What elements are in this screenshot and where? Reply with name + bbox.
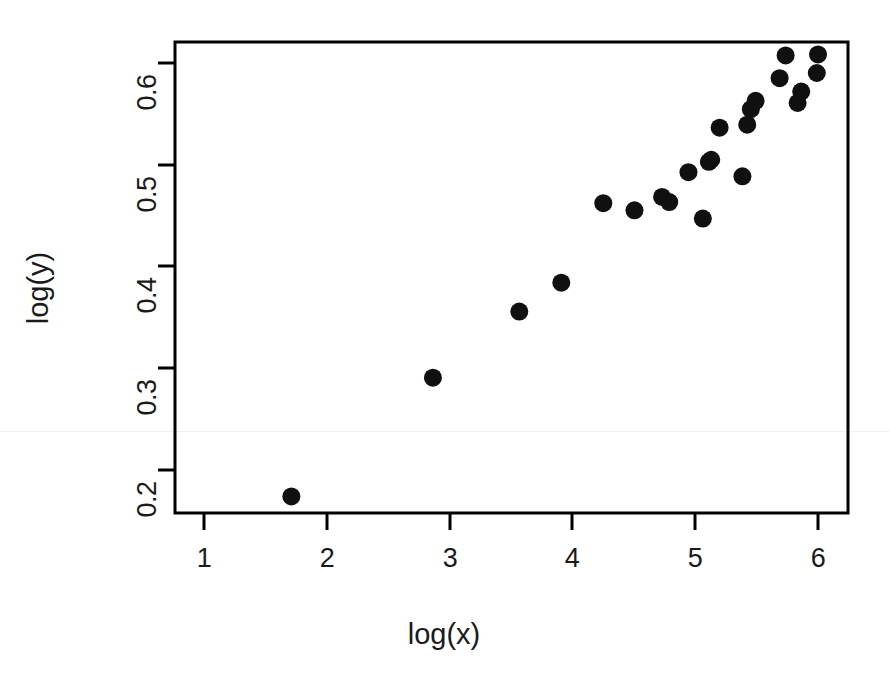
data-point	[771, 69, 789, 87]
data-point	[510, 303, 528, 321]
data-point	[777, 46, 795, 64]
y-axis-title: log(y)	[22, 252, 55, 325]
scatter-plot-figure: 123456 0.20.30.40.50.6 log(x) log(y)	[0, 0, 889, 696]
y-tick-label: 0.6	[132, 63, 163, 123]
data-point	[711, 119, 729, 137]
x-tick-label: 5	[688, 543, 703, 574]
data-point	[552, 274, 570, 292]
y-tick-label: 0.3	[132, 368, 163, 428]
data-point	[679, 163, 697, 181]
data-point	[282, 487, 300, 505]
data-point	[747, 92, 765, 110]
x-tick-label: 4	[565, 543, 580, 574]
x-tick-label: 2	[320, 543, 335, 574]
x-axis-title: log(x)	[408, 618, 481, 651]
data-point	[792, 83, 810, 101]
data-point	[660, 193, 678, 211]
data-point	[702, 151, 720, 169]
x-axis-ticks	[204, 513, 818, 530]
data-point	[594, 194, 612, 212]
y-tick-label: 0.2	[132, 470, 163, 530]
x-tick-label: 6	[811, 543, 826, 574]
data-point	[694, 210, 712, 228]
data-point	[733, 167, 751, 185]
data-point	[625, 201, 643, 219]
data-points	[282, 45, 827, 505]
y-tick-label: 0.4	[132, 266, 163, 326]
x-tick-label: 3	[443, 543, 458, 574]
y-tick-label: 0.5	[132, 165, 163, 225]
data-point	[808, 64, 826, 82]
data-point	[424, 369, 442, 387]
x-tick-label: 1	[197, 543, 212, 574]
data-point	[809, 45, 827, 63]
data-point	[738, 116, 756, 134]
